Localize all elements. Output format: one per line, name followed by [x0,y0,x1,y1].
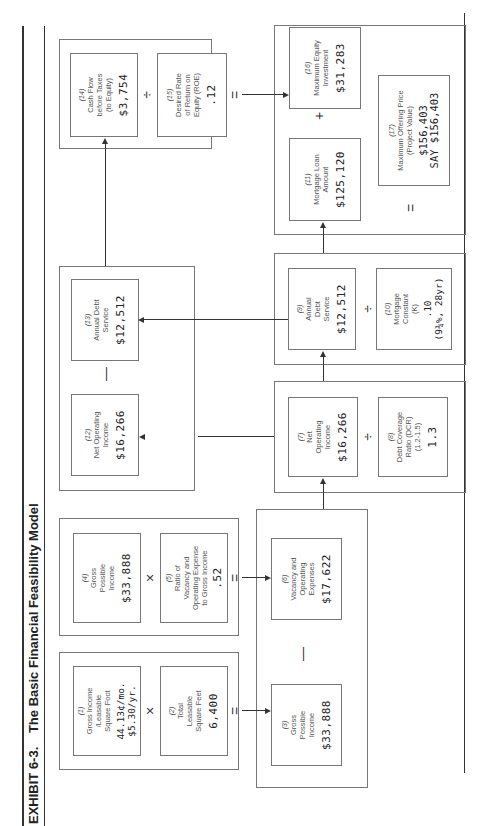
box-label: (to Equity) [104,78,113,112]
arrow-right-icon [320,478,326,484]
box-value: $17,622 [320,554,333,604]
box-value: $16,266 [114,410,127,460]
box-value: $33,888 [320,700,333,750]
box-label: Equity (ROE) [192,73,201,117]
equals-operator: = [228,88,242,102]
divide-operator: ÷ [361,430,375,444]
minus-operator: — [98,367,112,381]
box-label: Cash Flow [86,77,95,112]
box-number: (13) [84,314,91,326]
box-value: .52 [211,567,224,588]
divide-operator: ÷ [140,88,154,102]
box-label: Mortgage Loan [312,154,321,204]
box-label: Annual [304,297,313,320]
box-number: (17) [388,124,395,136]
box-3-gross-possible-income: (3) Gross Possible Income $33,888 [271,684,342,766]
box-label: Operating [314,421,323,454]
box-label: Constant [401,294,410,324]
box-value: 44.13¢/mo. [115,682,126,739]
box-number: (6) [281,575,288,584]
arrow-right-icon [102,138,108,144]
equals-operator: = [228,571,242,585]
arrow-up-icon [138,317,144,323]
box-number: (1) [77,707,84,716]
connector-15-to-16 [242,94,286,95]
box-value: 6,400 [207,693,220,729]
box-2-total-leasable-sqft: (2) Total Leasable Square Feet 6,400 [160,666,228,756]
box-number: (4) [81,574,88,583]
box-label: Square Feet [194,690,203,731]
connector-6-to-7 [323,480,324,509]
box-label: (Project Value) [405,106,414,155]
box-label: Income [107,566,116,591]
equals-operator: = [404,201,418,215]
box-4-gross-possible-income: (4) Gross Possible Income $33,888 [73,533,141,623]
box-label: Leasable [185,696,194,726]
box-14-cash-flow-before-taxes: (14) Cash Flow before Taxes (to Equity) … [70,53,138,137]
box-label: of Return on [183,74,192,115]
box-label: Expenses [307,563,316,596]
box-label: before Taxes [95,74,104,117]
box-label: (K) [410,304,419,314]
arrow-down-icon [283,92,289,98]
connector-10-to-11 [323,224,324,253]
exhibit-number: EXHIBIT 6-3. [26,747,41,824]
multiply-operator: × [143,571,157,585]
box-label: Gross Income [85,688,94,735]
box-label: Gross [89,568,98,588]
box-value: $3,754 [117,74,130,117]
box-number: (3) [281,721,288,730]
box-label: Maximum Offering Price [396,90,405,170]
exhibit-title-text: The Basic Financial Feasibility Model [26,503,41,733]
box-7-net-operating-income: (7) Net Operating Income $16,266 [288,397,358,477]
box-label: Income [101,423,110,448]
arrow-right-icon [320,351,326,357]
box-17-maximum-offering-price: (17) Maximum Offering Price (Project Val… [378,75,450,186]
box-value: $16,266 [336,412,349,462]
box-label: Operating Expense [191,546,200,610]
box-number: (15) [166,89,173,101]
exhibit-title: EXHIBIT 6-3. The Basic Financial Feasibi… [26,503,41,824]
box-label: Possible [98,564,107,592]
box-label: to Gross Income [200,550,209,605]
box-5-ratio-vacancy-opex: (5) Ratio of Vacancy and Operating Expen… [160,533,228,623]
arrow-down-icon [265,575,271,581]
arrow-up-icon [139,434,145,440]
box-label: (1.2-1.5) [413,423,422,451]
box-label: Income [307,713,316,738]
box-label: Investment [321,50,330,87]
box-value: $125,120 [334,151,347,208]
box-label: Service [322,297,331,322]
box-16-maximum-equity-investment: (16) Maximum Equity Investment $31,283 [289,27,361,109]
box-value-secondary: $5.30/yr. [126,685,137,736]
box-label: Gross [289,715,298,735]
box-10-mortgage-constant: (10) Mortgage Constant (K) .10 (9¾%, 28y… [376,268,452,350]
box-label: Debt [313,301,322,317]
box-label: Income [323,425,332,450]
document-page: EXHIBIT 6-3. The Basic Financial Feasibi… [0,0,495,826]
box-number: (12) [84,429,91,441]
box-label: Desired Rate [174,73,183,117]
box-number: (16) [304,62,311,74]
box-number: (10) [384,303,391,315]
box-number: (2) [168,707,175,716]
equals-operator: = [228,704,242,718]
box-number: (11) [304,174,311,186]
box-15-desired-roe: (15) Desired Rate of Return on Equity (R… [157,53,227,137]
box-label: Total [176,703,185,719]
box-number: (5) [165,574,172,583]
box-11-mortgage-loan-amount: (11) Mortgage Loan Amount $125,120 [289,138,361,221]
box-label: Operating [298,563,307,596]
box-label: Ratio (DCR) [404,417,413,458]
box-label: Square Foot [103,690,112,731]
box-label: Maximum Equity [312,40,321,95]
box-value-secondary: (9¾%, 28yr) [433,278,444,341]
box-number: (7) [297,433,304,442]
box-label: Amount [321,167,330,193]
box-1-gross-income-per-sqft: (1) Gross Income /Leasable Square Foot 4… [73,666,141,756]
box-number: (14) [78,89,85,101]
multiply-operator: × [143,704,157,718]
box-label: Annual Debt [92,299,101,340]
box-number: (8) [387,433,394,442]
plus-operator: + [312,109,326,123]
